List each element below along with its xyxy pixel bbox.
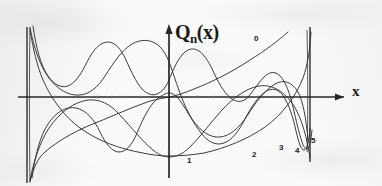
title-tail: (x) bbox=[197, 21, 219, 43]
x-axis-label: x bbox=[352, 84, 360, 99]
curve-group bbox=[30, 26, 312, 182]
x-axis-arrowhead bbox=[335, 93, 344, 100]
curve-label-0: 0 bbox=[254, 35, 258, 43]
curve-n4 bbox=[32, 89, 310, 178]
curve-n0 bbox=[30, 32, 288, 182]
plot-title: Qn(x) bbox=[175, 22, 219, 45]
curve-label-2: 2 bbox=[252, 151, 256, 159]
title-base: Q bbox=[175, 21, 190, 43]
curve-n2 bbox=[30, 86, 310, 180]
curve-label-3: 3 bbox=[279, 144, 283, 152]
qn-plot-figure: Qn(x) x 0 1 2 3 4 5 bbox=[0, 0, 382, 186]
title-subscript: n bbox=[190, 31, 197, 46]
curve-label-1: 1 bbox=[187, 157, 191, 165]
y-axis-arrowhead bbox=[165, 24, 172, 34]
asymptote-left-secondary bbox=[29, 27, 30, 182]
curve-label-4: 4 bbox=[295, 147, 299, 155]
curve-label-5: 5 bbox=[311, 137, 315, 145]
